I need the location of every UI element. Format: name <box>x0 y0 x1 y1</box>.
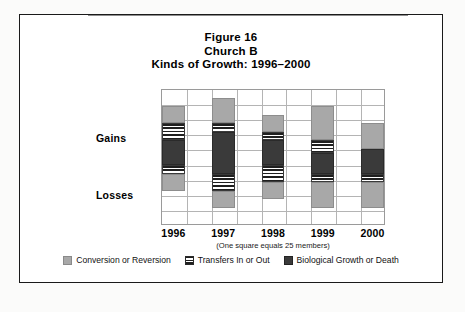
bar-segment-transfers <box>212 174 235 191</box>
bar-segment-transfers <box>311 140 334 153</box>
bar-segment-conversion <box>212 191 235 208</box>
legend-swatch-biological-icon <box>284 256 293 265</box>
plot-area <box>161 89 385 225</box>
legend-label-conversion: Conversion or Reversion <box>76 255 171 265</box>
title-line-1: Figure 16 <box>20 31 442 45</box>
bar-1997 <box>212 89 235 225</box>
bar-segment-biological <box>162 140 185 165</box>
legend-item-transfers: Transfers In or Out <box>185 255 270 265</box>
legend-label-biological: Biological Growth or Death <box>297 255 399 265</box>
legend-swatch-transfers-icon <box>185 256 194 265</box>
bar-segment-transfers <box>212 123 235 132</box>
bar-segment-transfers <box>311 174 334 182</box>
legend-item-biological: Biological Growth or Death <box>284 255 399 265</box>
bar-segment-biological <box>311 153 334 174</box>
bar-segment-conversion <box>361 123 384 149</box>
figure-page: Figure 16 Church B Kinds of Growth: 1996… <box>0 0 465 312</box>
x-tick-2000: 2000 <box>350 227 396 239</box>
x-tick-1997: 1997 <box>200 227 246 239</box>
bar-segment-conversion <box>262 115 285 132</box>
bar-segment-conversion <box>311 106 334 140</box>
y-axis-label-losses: Losses <box>96 189 133 201</box>
bar-segment-transfers <box>162 165 185 174</box>
bar-segment-conversion <box>361 182 384 208</box>
bar-segment-biological <box>212 132 235 174</box>
bar-segment-conversion <box>262 182 285 199</box>
bar-segment-conversion <box>162 174 185 191</box>
chart-footnote: (One square equals 25 members) <box>161 241 385 250</box>
bar-segment-transfers <box>162 123 185 140</box>
title-line-2: Church B <box>20 45 442 59</box>
x-tick-1996: 1996 <box>150 227 196 239</box>
figure-frame: Figure 16 Church B Kinds of Growth: 1996… <box>19 14 443 283</box>
bar-segment-conversion <box>162 106 185 123</box>
bar-1998 <box>262 89 285 225</box>
bar-segment-biological <box>361 149 384 174</box>
bar-1999 <box>311 89 334 225</box>
figure-title: Figure 16 Church B Kinds of Growth: 1996… <box>20 31 442 72</box>
bar-segment-conversion <box>212 98 235 123</box>
x-tick-1999: 1999 <box>300 227 346 239</box>
y-axis-label-gains: Gains <box>96 132 126 144</box>
bar-segment-transfers <box>262 132 285 140</box>
bar-segment-conversion <box>311 182 334 208</box>
bar-series-layer <box>161 89 385 225</box>
bar-1996 <box>162 89 185 225</box>
legend-swatch-conversion-icon <box>63 256 72 265</box>
bar-segment-biological <box>262 140 285 165</box>
x-tick-1998: 1998 <box>250 227 296 239</box>
legend-label-transfers: Transfers In or Out <box>198 255 270 265</box>
legend-item-conversion: Conversion or Reversion <box>63 255 171 265</box>
zero-baseline <box>88 15 408 16</box>
title-line-3: Kinds of Growth: 1996–2000 <box>20 58 442 72</box>
bar-segment-transfers <box>361 174 384 182</box>
x-axis-tick-labels: 19961997199819992000 <box>161 227 385 241</box>
bar-segment-transfers <box>262 165 285 182</box>
bar-2000 <box>361 89 384 225</box>
chart-legend: Conversion or ReversionTransfers In or O… <box>20 255 442 265</box>
